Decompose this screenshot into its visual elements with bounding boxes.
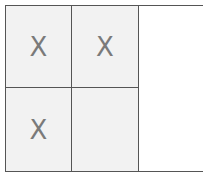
empty-column[interactable] [139, 6, 203, 171]
cell-r1-c1[interactable] [72, 88, 139, 171]
game-board: X X X [5, 5, 203, 172]
cell-r1-c0[interactable]: X [6, 88, 72, 171]
cell-r0-c0[interactable]: X [6, 6, 72, 88]
x-mark: X [30, 32, 48, 62]
x-mark: X [30, 115, 48, 145]
x-mark: X [96, 32, 114, 62]
cell-r0-c1[interactable]: X [72, 6, 139, 88]
